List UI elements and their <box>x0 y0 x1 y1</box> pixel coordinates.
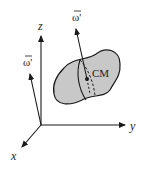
x-axis <box>22 125 41 147</box>
y-axis-label: y <box>129 119 136 133</box>
omega-label-cm: ω' <box>72 11 81 23</box>
omega-label-origin: ω' <box>23 56 32 68</box>
center-of-mass-point <box>85 77 89 81</box>
z-axis-label: z <box>37 19 43 33</box>
center-of-mass-label: CM <box>92 67 109 79</box>
rigid-body-diagram: z y x ω' ω' CM <box>0 0 148 171</box>
omega-vector-origin <box>30 74 41 125</box>
x-axis-label: x <box>10 149 17 163</box>
